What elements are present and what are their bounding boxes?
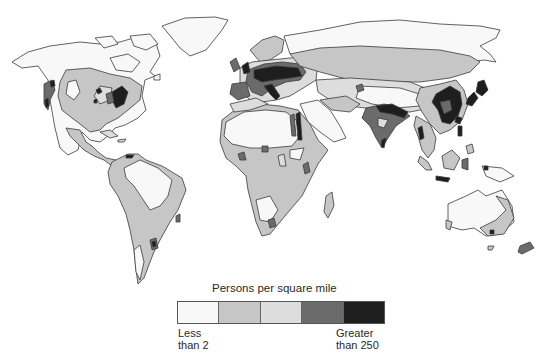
legend-low-line-2: than 2 <box>178 339 238 351</box>
north-america <box>12 34 160 155</box>
australia <box>446 190 514 250</box>
legend-swatch-2 <box>219 302 260 323</box>
legend-swatch-4 <box>302 302 343 323</box>
legend-title: Persons per square mile <box>212 282 337 294</box>
legend-low-label: Less than 2 <box>178 327 238 351</box>
greenland <box>162 17 228 56</box>
world-population-density-map <box>0 0 546 290</box>
legend-high-line-2: than 250 <box>336 339 406 351</box>
legend-high-label: Greater than 250 <box>336 327 406 351</box>
legend-swatch-1 <box>178 302 219 323</box>
legend-swatch-5 <box>344 302 384 323</box>
legend-low-line-1: Less <box>178 327 238 339</box>
south-america <box>108 154 186 284</box>
new-zealand <box>518 242 534 254</box>
legend-swatch-3 <box>261 302 302 323</box>
legend-high-line-1: Greater <box>336 327 406 339</box>
legend-color-scale <box>177 301 385 324</box>
